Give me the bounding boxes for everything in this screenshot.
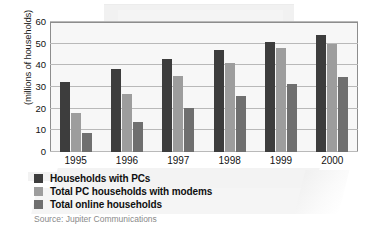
x-tick-label: 1995 (65, 155, 87, 166)
bar-group: 1998 (204, 22, 255, 152)
bar-series-3 (338, 77, 348, 152)
y-tick-label: 30 (35, 81, 46, 92)
bar-series-2 (276, 48, 286, 152)
legend-swatch-households-with-pcs (34, 174, 43, 183)
bar-group: 1997 (153, 22, 204, 152)
legend-item: Total PC households with modems (34, 185, 212, 198)
legend-label: Total online households (50, 199, 162, 210)
chart-figure: (millions of households) 0102030405060 1… (0, 0, 373, 237)
bar-series-3 (287, 84, 297, 152)
bar-series-2 (122, 94, 132, 153)
legend-label: Total PC households with modems (50, 186, 212, 197)
y-tick-label: 50 (35, 37, 46, 48)
plot-area: 0102030405060 199519961997199819992000 (50, 22, 358, 152)
bar-series-2 (71, 113, 81, 152)
bar-group: 1996 (101, 22, 152, 152)
bar-series-3 (184, 108, 194, 152)
bar-series-1 (265, 42, 275, 153)
bar-series-2 (173, 76, 183, 152)
legend-label: Households with PCs (50, 173, 150, 184)
y-tick-label: 20 (35, 102, 46, 113)
bar-group: 1995 (50, 22, 101, 152)
legend-item: Households with PCs (34, 172, 212, 185)
bar-series-1 (111, 69, 121, 152)
bar-group: 2000 (307, 22, 358, 152)
x-tick-label: 1996 (116, 155, 138, 166)
bar-group: 1999 (255, 22, 306, 152)
bar-series-2 (327, 44, 337, 152)
y-tick-label: 40 (35, 59, 46, 70)
bar-series-1 (162, 59, 172, 152)
bar-series-3 (236, 96, 246, 152)
x-tick-label: 1998 (219, 155, 241, 166)
chart-legend: Households with PCs Total PC households … (34, 172, 212, 211)
bar-series-3 (82, 133, 92, 153)
bar-groups: 199519961997199819992000 (50, 22, 358, 152)
source-note: Source: Jupiter Communications (34, 214, 157, 224)
legend-swatch-pc-households-with-modems (34, 187, 43, 196)
legend-swatch-total-online-households (34, 200, 43, 209)
bar-series-3 (133, 122, 143, 152)
background-keyboard-edge-watermark (295, 170, 350, 214)
y-axis-label: (millions of households) (22, 0, 33, 123)
bar-series-1 (214, 50, 224, 152)
x-tick-label: 1999 (270, 155, 292, 166)
y-tick-label: 10 (35, 124, 46, 135)
bar-series-1 (60, 82, 70, 152)
bar-series-1 (316, 35, 326, 152)
bar-series-2 (225, 63, 235, 152)
y-tick-label: 0 (41, 146, 46, 157)
legend-item: Total online households (34, 198, 212, 211)
x-tick-label: 2000 (321, 155, 343, 166)
y-tick-label: 60 (35, 16, 46, 27)
x-tick-label: 1997 (167, 155, 189, 166)
